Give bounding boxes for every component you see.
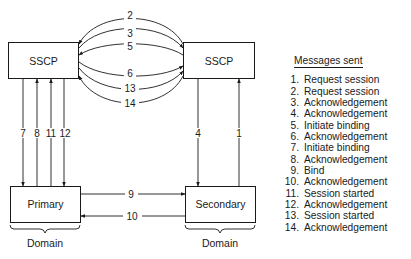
arrow-1-label: 1 [236, 128, 242, 139]
legend-item: 8.Acknowledgement [282, 154, 410, 165]
arc-13-label: 13 [124, 83, 136, 94]
sscp-right-box: SSCP [184, 43, 255, 79]
arc-14-label: 14 [124, 98, 136, 109]
domain-brace-left [10, 225, 80, 233]
legend-item: 2.Request session [282, 86, 410, 97]
secondary-label: Secondary [195, 198, 246, 210]
arc-5-label: 5 [127, 41, 133, 52]
session-establishment-diagram: SSCP SSCP Primary Secondary 2 3 5 6 [0, 0, 280, 259]
arc-2-label: 2 [127, 10, 133, 21]
legend-item: 12.Acknowledgement [282, 199, 410, 210]
legend-item: 6.Acknowledgement [282, 131, 410, 142]
domain-right-label: Domain [202, 237, 238, 249]
legend-item: 9.Bind [282, 165, 410, 176]
arrow-12-label: 12 [59, 128, 71, 139]
arc-6-label: 6 [127, 68, 133, 79]
legend-item: 7.Initiate binding [282, 142, 410, 153]
legend-item: 3.Acknowledgement [282, 97, 410, 108]
legend-item: 1.Request session [282, 74, 410, 85]
arrow-8-label: 8 [34, 128, 40, 139]
arrow-7-label: 7 [20, 128, 26, 139]
legend-item: 14.Acknowledgement [282, 222, 410, 233]
legend-item: 11.Session started [282, 188, 410, 199]
legend-title: Messages sent [294, 55, 363, 68]
sscp-left-label: SSCP [29, 55, 58, 67]
domain-brace-right [185, 225, 255, 233]
legend-item: 5.Initiate binding [282, 120, 410, 131]
arrow-11-label: 11 [46, 128, 57, 139]
arc-3-label: 3 [127, 28, 133, 39]
arrow-9-label: 9 [128, 189, 134, 200]
legend-list: 1.Request session 2.Request session 3.Ac… [282, 74, 410, 233]
legend-item: 10.Acknowledgement [282, 176, 410, 187]
arrow-10-label: 10 [126, 211, 138, 222]
legend-item: 13.Session started [282, 210, 410, 221]
sscp-right-label: SSCP [205, 55, 234, 67]
secondary-box: Secondary [186, 187, 256, 223]
arrow-4-label: 4 [195, 128, 201, 139]
domain-left-label: Domain [27, 237, 63, 249]
sscp-left-box: SSCP [9, 43, 79, 79]
primary-label: Primary [27, 198, 64, 210]
legend-item: 4.Acknowledgement [282, 108, 410, 119]
primary-box: Primary [11, 187, 81, 223]
messages-legend: Messages sent 1.Request session 2.Reques… [282, 55, 410, 233]
